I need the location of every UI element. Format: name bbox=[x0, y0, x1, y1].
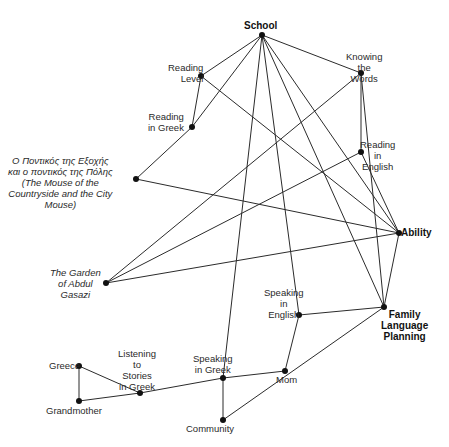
edge-mouse-ability bbox=[136, 179, 399, 233]
node-label-reading_level: Reading Level bbox=[168, 62, 203, 84]
node-dot-mouse bbox=[133, 176, 139, 182]
node-label-garden: The Garden of Abdul Gasazi bbox=[50, 267, 101, 300]
edge-garden-ability bbox=[106, 233, 399, 283]
edge-ability-flp bbox=[384, 233, 399, 307]
node-label-school: School bbox=[244, 20, 277, 31]
edge-knowing_words-flp bbox=[361, 73, 384, 307]
edge-knowing_words-garden bbox=[106, 73, 361, 283]
node-dot-school bbox=[259, 32, 265, 38]
edge-speaking_english-flp bbox=[299, 307, 384, 315]
node-label-mouse: Ο Ποντικός της Εξοχής και ο ποντικός της… bbox=[8, 155, 113, 210]
node-label-greece: Greece bbox=[49, 360, 80, 371]
edge-flp-community bbox=[223, 307, 384, 420]
node-label-community: Community bbox=[186, 423, 234, 434]
node-dot-reading_greek bbox=[189, 124, 195, 130]
edge-school-reading_level bbox=[201, 35, 262, 76]
node-label-knowing_words: Knowing the Words bbox=[346, 51, 382, 84]
edge-reading_greek-mouse bbox=[136, 127, 192, 179]
edge-school-speaking_greek bbox=[223, 35, 262, 378]
node-label-flp: Family Language Planning bbox=[381, 309, 428, 342]
node-label-speaking_english: Speaking in English bbox=[264, 287, 304, 320]
edge-speaking_english-mom bbox=[285, 315, 299, 371]
node-label-ability: Ability bbox=[401, 227, 432, 238]
node-label-mom: Mom bbox=[276, 374, 297, 385]
edge-listening-grandmother bbox=[79, 393, 140, 401]
node-dot-speaking_greek bbox=[220, 375, 226, 381]
network-diagram: SchoolReading LevelReading in GreekKnowi… bbox=[0, 0, 449, 447]
node-label-grandmother: Grandmother bbox=[46, 405, 102, 416]
node-dot-grandmother bbox=[76, 398, 82, 404]
node-label-reading_english: Reading in English bbox=[360, 139, 395, 172]
node-label-reading_greek: Reading in Greek bbox=[148, 111, 184, 133]
node-dot-garden bbox=[103, 280, 109, 286]
node-label-listening: Listening to Stories in Greek bbox=[118, 348, 156, 392]
node-label-speaking_greek: Speaking in Greek bbox=[193, 353, 233, 375]
